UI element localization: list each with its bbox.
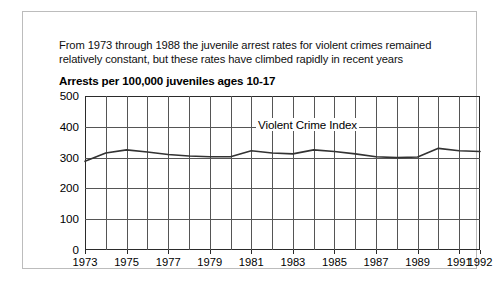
chart-subtitle: Arrests per 100,000 juveniles ages 10-17 <box>59 74 275 87</box>
x-axis-tick-mark <box>480 250 481 254</box>
x-axis-tick-mark <box>293 250 294 254</box>
y-axis-tick-label: 200 <box>60 183 79 195</box>
x-axis-tick-mark <box>251 250 252 254</box>
figure-frame: From 1973 through 1988 the juvenile arre… <box>22 11 477 269</box>
x-axis-tick-label: 1973 <box>73 257 98 268</box>
x-axis-tick-mark <box>334 250 335 254</box>
x-axis-tick-label: 1975 <box>114 257 139 268</box>
y-axis-tick-label: 0 <box>73 244 79 256</box>
x-axis-tick-label: 1977 <box>156 257 181 268</box>
figure-container: From 1973 through 1988 the juvenile arre… <box>0 0 497 281</box>
x-axis-tick-label: 1989 <box>405 257 430 268</box>
x-axis-tick-label: 1983 <box>280 257 305 268</box>
x-axis-tick-mark <box>85 250 86 254</box>
x-axis-tick-label: 1987 <box>364 257 389 268</box>
x-axis-tick-mark <box>127 250 128 254</box>
x-axis-tick-mark <box>376 250 377 254</box>
x-axis-tick-mark <box>168 250 169 254</box>
y-axis-tick-label: 400 <box>60 121 79 133</box>
x-axis-tick-mark <box>210 250 211 254</box>
caption-line-1: From 1973 through 1988 the juvenile arre… <box>59 38 479 52</box>
figure-caption: From 1973 through 1988 the juvenile arre… <box>59 38 479 66</box>
x-axis-tick-mark <box>459 250 460 254</box>
x-axis-tick-label: 1979 <box>197 257 222 268</box>
caption-line-2: relatively constant, but these rates hav… <box>59 52 479 66</box>
series-annotation-label: Violent Crime Index <box>256 118 359 131</box>
x-axis-tick-label: 1985 <box>322 257 347 268</box>
y-axis-tick-label: 300 <box>60 152 79 164</box>
y-axis-tick-label: 100 <box>60 213 79 225</box>
x-axis-tick-label: 1981 <box>239 257 264 268</box>
x-axis-tick-mark <box>418 250 419 254</box>
violent-crime-index-line <box>85 148 480 161</box>
y-axis-tick-label: 500 <box>60 90 79 102</box>
x-axis-tick-label: 1992 <box>468 257 493 268</box>
